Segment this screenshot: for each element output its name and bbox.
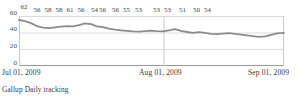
y-tick-label-40: 40 xyxy=(10,26,17,33)
line-series-svg xyxy=(19,16,284,66)
y-axis: 60 40 20 0 xyxy=(0,10,17,68)
gallup-line-chart-widget: 60 40 20 0 62565858615654565655535353515… xyxy=(0,0,302,98)
data-point-label: 53 xyxy=(153,7,160,14)
data-point-label: 54 xyxy=(91,7,98,14)
data-point-label: 56 xyxy=(112,7,119,14)
x-axis: Jul 01, 2009 Aug 01, 2009 Sep 01, 2009 xyxy=(0,68,302,80)
data-point-label: 61 xyxy=(67,7,74,14)
data-point-label: 53 xyxy=(135,7,142,14)
data-point-label: 56 xyxy=(99,7,106,14)
data-point-labels: 62565858615654565655535353515054 xyxy=(19,0,291,16)
data-point-label: 58 xyxy=(56,7,63,14)
x-tick-label-sep: Sep 01, 2009 xyxy=(248,68,289,77)
data-point-label: 50 xyxy=(193,7,200,14)
x-tick-label-jul: Jul 01, 2009 xyxy=(2,68,41,77)
data-point-label: 56 xyxy=(34,7,41,14)
data-point-label: 55 xyxy=(123,7,130,14)
source-note: Gallup Daily tracking xyxy=(2,85,69,94)
y-tick-label-0: 0 xyxy=(13,60,17,67)
plot-area xyxy=(19,16,284,66)
x-tick-label-aug: Aug 01, 2009 xyxy=(139,68,182,77)
data-point-label: 58 xyxy=(45,7,52,14)
series-line-gallup xyxy=(19,20,284,37)
data-point-label: 54 xyxy=(204,7,211,14)
y-tick-label-60: 60 xyxy=(10,10,17,17)
y-tick-label-20: 20 xyxy=(10,43,17,50)
data-point-label: 56 xyxy=(78,7,85,14)
data-point-label: 53 xyxy=(164,7,171,14)
data-point-label: 51 xyxy=(179,7,186,14)
data-point-label: 62 xyxy=(21,4,28,11)
